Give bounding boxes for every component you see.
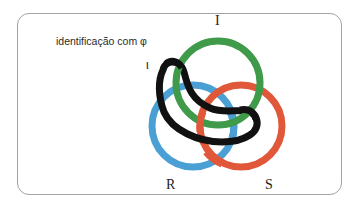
ring-symbolic-over-segment	[200, 112, 203, 132]
identification-caption: identificação com φ	[56, 35, 147, 47]
iota-loop-over-segment	[166, 61, 182, 68]
label-imaginary: I	[215, 13, 220, 29]
label-symbolic: S	[265, 177, 273, 193]
iota-label: ι	[146, 58, 149, 72]
borromean-knot	[0, 0, 363, 210]
label-real: R	[166, 177, 175, 193]
